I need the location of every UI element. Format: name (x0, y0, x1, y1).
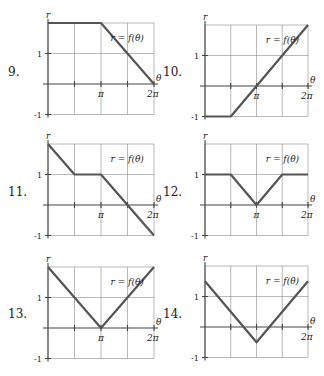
theta-tick-label-pi: π (253, 91, 261, 101)
theta-axis-label: θ (156, 194, 162, 204)
r-axis-label: r (203, 12, 208, 22)
theta-axis-label: θ (310, 316, 316, 326)
theta-axis-label: θ (156, 73, 162, 83)
r-tick-label-neg1: -1 (191, 232, 199, 241)
graph-panel-13: rθ1-1π2πr = f(θ)13. (8, 254, 162, 364)
polar-graph-exercise-grid: rθ1-1π2πr = f(θ)9.rθ1-1π2πr = f(θ)10.rθ1… (0, 0, 324, 376)
r-tick-label-neg1: -1 (34, 232, 42, 241)
graph-panel-10: rθ1-1π2πr = f(θ)10. (163, 12, 316, 122)
theta-tick-label-2pi: 2π (146, 333, 160, 343)
r-tick-label-1: 1 (194, 293, 199, 302)
theta-tick-label-pi: π (97, 210, 105, 220)
r-tick-label-neg1: -1 (34, 355, 42, 364)
exercise-number: 12. (163, 185, 182, 199)
r-axis-label: r (203, 253, 208, 263)
r-axis-label: r (46, 254, 51, 264)
theta-tick-label-pi: π (97, 89, 105, 99)
function-label: r = f(θ) (111, 154, 145, 164)
theta-tick-label-2pi: 2π (300, 91, 314, 101)
r-tick-label-1: 1 (37, 50, 42, 59)
function-label: r = f(θ) (266, 276, 300, 286)
r-tick-label-1: 1 (194, 52, 199, 61)
theta-axis-label: θ (310, 75, 316, 85)
function-label: r = f(θ) (266, 154, 300, 164)
exercise-number: 13. (8, 307, 27, 321)
r-axis-label: r (203, 131, 208, 141)
graph-panel-12: rθ1-1π2πr = f(θ)12. (163, 131, 316, 241)
r-tick-label-1: 1 (37, 171, 42, 180)
r-axis-label: r (46, 10, 51, 20)
theta-axis-label: θ (310, 194, 316, 204)
r-tick-label-neg1: -1 (34, 111, 42, 120)
function-label: r = f(θ) (111, 33, 145, 43)
theta-tick-label-pi: π (97, 333, 105, 343)
theta-tick-label-pi: π (253, 210, 261, 220)
exercise-number: 11. (8, 185, 27, 199)
graph-panel-9: rθ1-1π2πr = f(θ)9. (8, 10, 162, 120)
r-tick-label-neg1: -1 (191, 354, 199, 363)
theta-tick-label-2pi: 2π (300, 210, 314, 220)
r-tick-label-1: 1 (37, 294, 42, 303)
r-tick-label-neg1: -1 (191, 113, 199, 122)
exercise-number: 14. (163, 307, 182, 321)
r-tick-label-1: 1 (194, 171, 199, 180)
theta-tick-label-2pi: 2π (146, 89, 160, 99)
function-label: r = f(θ) (111, 277, 145, 287)
exercise-number: 10. (163, 65, 182, 79)
theta-tick-label-2pi: 2π (146, 210, 160, 220)
function-label: r = f(θ) (266, 35, 300, 45)
r-axis-label: r (46, 131, 51, 141)
exercise-number: 9. (8, 65, 19, 79)
graph-panel-14: rθ1-12πr = f(θ)14. (163, 253, 316, 363)
graph-panel-11: rθ1-1π2πr = f(θ)11. (8, 131, 162, 241)
theta-axis-label: θ (156, 317, 162, 327)
theta-tick-label-2pi: 2π (300, 332, 314, 342)
